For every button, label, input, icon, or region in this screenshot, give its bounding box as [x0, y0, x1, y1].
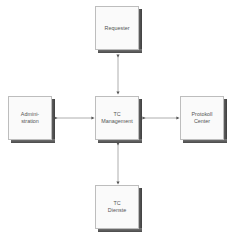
node-tc-dienste: TC Dienste [95, 185, 139, 229]
node-label: Admini- stration [21, 111, 39, 125]
box-face: TC Management [95, 96, 139, 140]
box-face: Requester [95, 6, 139, 50]
node-tc-management: TC Management [95, 96, 139, 140]
node-label: TC Dienste [108, 200, 126, 214]
node-label: Protokoll Center [192, 111, 213, 125]
node-protokoll-center: Protokoll Center [180, 96, 224, 140]
node-administration: Admini- stration [8, 96, 52, 140]
node-label: Requester [105, 25, 130, 32]
box-face: Admini- stration [8, 96, 52, 140]
box-face: Protokoll Center [180, 96, 224, 140]
node-label: TC Management [101, 111, 132, 125]
box-face: TC Dienste [95, 185, 139, 229]
node-requester: Requester [95, 6, 139, 50]
